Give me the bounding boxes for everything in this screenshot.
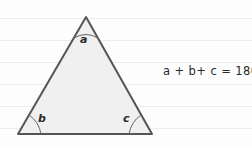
geometry-diagram-page: a b c a + b+ c = 180° xyxy=(0,0,252,147)
equation-text: a + b+ c = 180 xyxy=(163,64,252,78)
angle-sum-equation: a + b+ c = 180° xyxy=(163,65,252,77)
angle-label-b: b xyxy=(38,113,46,124)
angle-label-c: c xyxy=(123,113,130,124)
angle-label-a: a xyxy=(80,34,87,45)
